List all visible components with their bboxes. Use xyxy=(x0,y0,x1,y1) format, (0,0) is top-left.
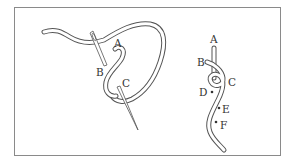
left-label-c: C xyxy=(122,78,130,89)
point-d-dot xyxy=(211,91,214,94)
right-label-b: B xyxy=(197,57,205,68)
right-label-d: D xyxy=(199,87,207,98)
right-label-e: E xyxy=(222,104,230,115)
stitch-diagram xyxy=(0,0,292,163)
left-label-b: B xyxy=(96,67,104,78)
right-thread xyxy=(207,48,224,150)
point-e-dot xyxy=(218,107,221,110)
right-label-a: A xyxy=(210,34,218,45)
left-label-a: A xyxy=(114,38,122,49)
right-label-f: F xyxy=(220,120,227,131)
point-f-dot xyxy=(215,121,218,124)
right-figure xyxy=(207,48,224,150)
needle-upper-icon xyxy=(90,31,107,66)
needle-lower-icon xyxy=(117,86,138,130)
right-label-c: C xyxy=(228,77,236,88)
